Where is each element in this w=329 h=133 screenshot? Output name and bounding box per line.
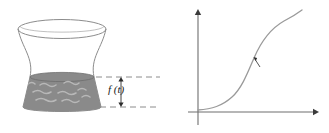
sigmoid-curve (198, 10, 302, 110)
measure-arrowhead-up (118, 77, 123, 82)
y-axis-arrowhead (195, 9, 201, 15)
concavity-chart-svg (164, 0, 329, 133)
graph-panel: y t Concave upward Concave downward Infl… (164, 0, 329, 133)
vase-drawing (0, 0, 165, 133)
vase-rim-outer-ellipse (18, 20, 106, 39)
liquid-surface-ellipse (30, 72, 94, 81)
measure-arrowhead-down (118, 102, 123, 107)
vase-panel: f (t) (0, 0, 165, 133)
vase-rim-inner-arc (20, 27, 104, 33)
height-label-ft: f (t) (108, 84, 124, 96)
figure-container: f (t) y t Concave upward Concave downwar… (0, 0, 329, 133)
x-axis-arrowhead (313, 109, 319, 115)
